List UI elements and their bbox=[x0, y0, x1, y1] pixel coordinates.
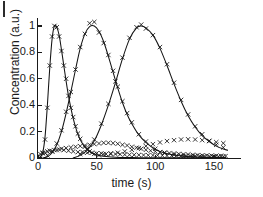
data-point-marker bbox=[193, 138, 197, 142]
data-point-marker bbox=[64, 146, 68, 150]
data-point-marker bbox=[179, 138, 183, 142]
data-point-marker bbox=[153, 150, 157, 154]
data-point-marker bbox=[151, 33, 155, 37]
data-point-marker bbox=[121, 143, 125, 147]
data-point-marker bbox=[186, 137, 190, 141]
x-tick-label: 0 bbox=[35, 161, 41, 172]
data-point-marker bbox=[128, 153, 132, 157]
y-axis-spine bbox=[37, 18, 38, 159]
data-point-marker bbox=[69, 146, 73, 150]
data-point-marker bbox=[130, 148, 134, 152]
x-axis-title: time (s) bbox=[0, 176, 263, 190]
y-tick-mark bbox=[38, 105, 42, 106]
data-point-marker bbox=[116, 142, 120, 146]
data-point-marker bbox=[165, 139, 169, 143]
y-tick-mark bbox=[38, 131, 42, 132]
figure-concentration-vs-time: 00.20.40.60.81 time (s) Concentration (a… bbox=[0, 0, 263, 197]
data-point-marker bbox=[106, 141, 110, 145]
y-tick-mark bbox=[38, 78, 42, 79]
data-point-marker bbox=[78, 144, 82, 148]
data-point-marker bbox=[88, 21, 92, 25]
data-point-marker bbox=[149, 149, 153, 153]
x-tick-label: 50 bbox=[91, 161, 103, 172]
data-point-marker bbox=[125, 144, 129, 148]
data-point-marker bbox=[102, 141, 106, 145]
plot-canvas bbox=[38, 18, 228, 158]
x-tick-label: 100 bbox=[146, 161, 164, 172]
plot-area bbox=[38, 18, 228, 158]
y-tick-mark bbox=[38, 52, 42, 53]
data-point-marker bbox=[158, 141, 162, 145]
data-point-marker bbox=[172, 138, 176, 142]
y-tick-label: 0.2 bbox=[2, 126, 35, 137]
series-peak-1-fit bbox=[38, 25, 226, 158]
x-tick-label: 150 bbox=[205, 161, 223, 172]
y-axis-title: Concentration (a.u.) bbox=[8, 0, 22, 127]
data-point-marker bbox=[137, 153, 141, 157]
x-tick-mark bbox=[155, 155, 156, 159]
data-point-marker bbox=[221, 141, 225, 145]
x-tick-mark bbox=[96, 155, 97, 159]
data-point-marker bbox=[76, 150, 80, 154]
data-point-marker bbox=[132, 153, 136, 157]
data-point-marker bbox=[144, 148, 148, 152]
data-point-marker bbox=[88, 143, 92, 147]
x-tick-mark bbox=[213, 155, 214, 159]
data-point-marker bbox=[214, 140, 218, 144]
fit-curve bbox=[73, 26, 228, 158]
data-point-marker bbox=[74, 145, 78, 149]
fit-curve bbox=[38, 25, 226, 158]
y-tick-mark bbox=[38, 25, 42, 26]
data-point-marker bbox=[142, 153, 146, 157]
data-point-marker bbox=[144, 144, 148, 148]
data-point-marker bbox=[200, 138, 204, 142]
x-tick-mark bbox=[37, 155, 38, 159]
series-peak-3-fit bbox=[73, 26, 228, 158]
y-tick-label: 0 bbox=[2, 152, 35, 163]
data-point-marker bbox=[123, 150, 127, 154]
data-point-marker bbox=[109, 152, 113, 156]
data-point-marker bbox=[92, 142, 96, 146]
data-point-marker bbox=[97, 142, 101, 146]
series-baseline-a bbox=[38, 148, 225, 158]
data-point-marker bbox=[151, 142, 155, 146]
data-point-marker bbox=[71, 150, 75, 154]
data-point-marker bbox=[146, 153, 150, 157]
data-point-marker bbox=[92, 20, 96, 24]
data-point-marker bbox=[109, 151, 113, 155]
data-point-marker bbox=[156, 153, 160, 157]
data-point-marker bbox=[111, 141, 115, 145]
